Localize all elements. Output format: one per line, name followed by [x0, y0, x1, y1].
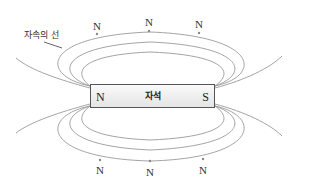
magnet-label: 자석	[91, 92, 214, 101]
flux-line-label: 자속의 선	[24, 31, 59, 40]
bar-magnet: N 자석 S	[90, 84, 215, 108]
bottom-marker-1: N	[96, 165, 104, 176]
bottom-marker-3: N	[199, 165, 207, 176]
top-marker-2: N	[145, 17, 153, 28]
south-pole-label: S	[202, 91, 209, 103]
top-marker-1: N	[93, 21, 101, 32]
top-marker-3: N	[195, 19, 203, 30]
bottom-marker-2: N	[146, 167, 154, 178]
